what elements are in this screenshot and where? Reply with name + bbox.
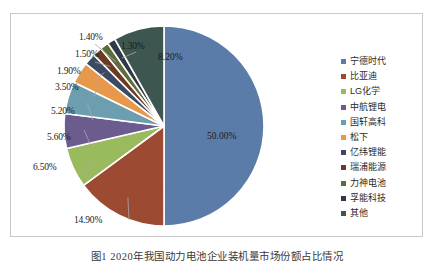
pie-label-3.50: 3.50% xyxy=(55,82,79,92)
legend-color-swatch-icon xyxy=(341,105,346,110)
legend-item-label: 宁德时代 xyxy=(350,57,386,66)
pie-label-5.20: 5.20% xyxy=(51,106,75,116)
legend-item[interactable]: 孚能科技 xyxy=(341,191,419,206)
legend-item[interactable]: 其他 xyxy=(341,206,419,221)
legend-item-label: 亿纬锂能 xyxy=(350,148,386,157)
pie-label-14.90: 14.90% xyxy=(74,215,102,225)
pie-label-1.30: 1.30% xyxy=(121,41,145,51)
pie-label-1.50: 1.50% xyxy=(75,49,99,59)
legend-color-swatch-icon xyxy=(341,181,346,186)
legend-item[interactable]: 中航锂电 xyxy=(341,100,419,115)
legend-color-swatch-icon xyxy=(341,120,346,125)
legend-item[interactable]: 亿纬锂能 xyxy=(341,145,419,160)
legend-color-swatch-icon xyxy=(341,211,346,216)
pie-label-8.20: 8.20% xyxy=(158,52,183,62)
legend-color-swatch-icon xyxy=(341,74,346,79)
figure-caption-text: 图1 2020年我国动力电池企业装机量市场份额占比情况 xyxy=(91,248,343,263)
legend-item[interactable]: 宁德时代 xyxy=(341,54,419,69)
pie-chart-plot-area: 1.40% 1.30% 1.50% 1.90% 3.50% 5.20% 5.60… xyxy=(11,14,422,236)
pie-label-5.60: 5.60% xyxy=(47,132,71,142)
legend-item-label: 比亚迪 xyxy=(350,72,377,81)
legend-color-swatch-icon xyxy=(341,165,346,170)
legend-color-swatch-icon xyxy=(341,89,346,94)
legend-color-swatch-icon xyxy=(341,196,346,201)
legend-item[interactable]: 力神电池 xyxy=(341,176,419,191)
legend-item-label: 其他 xyxy=(350,209,368,218)
pie-label-1.40: 1.40% xyxy=(79,32,103,42)
legend-item[interactable]: 瑞浦能源 xyxy=(341,160,419,175)
legend-item-label: LG化学 xyxy=(350,87,380,96)
legend-item[interactable]: 比亚迪 xyxy=(341,69,419,84)
chart-frame: 1.40% 1.30% 1.50% 1.90% 3.50% 5.20% 5.60… xyxy=(10,13,423,237)
legend-color-swatch-icon xyxy=(341,135,346,140)
legend-color-swatch-icon xyxy=(341,59,346,64)
legend-item[interactable]: LG化学 xyxy=(341,84,419,99)
legend-item-label: 中航锂电 xyxy=(350,103,386,112)
figure-caption: 图1 2020年我国动力电池企业装机量市场份额占比情况 xyxy=(0,248,434,267)
legend-item-label: 瑞浦能源 xyxy=(350,163,386,172)
pie-label-1.90: 1.90% xyxy=(57,66,81,76)
legend-item[interactable]: 松下 xyxy=(341,130,419,145)
legend-color-swatch-icon xyxy=(341,150,346,155)
legend-item-label: 力神电池 xyxy=(350,179,386,188)
legend-item-label: 国轩高科 xyxy=(350,118,386,127)
legend-item-label: 松下 xyxy=(350,133,368,142)
legend-item[interactable]: 国轩高科 xyxy=(341,115,419,130)
pie-label-6.50: 6.50% xyxy=(33,162,57,172)
pie-label-50.00: 50.00% xyxy=(207,131,236,141)
legend-item-label: 孚能科技 xyxy=(350,194,386,203)
chart-legend: 宁德时代比亚迪LG化学中航锂电国轩高科松下亿纬锂能瑞浦能源力神电池孚能科技其他 xyxy=(341,54,419,221)
